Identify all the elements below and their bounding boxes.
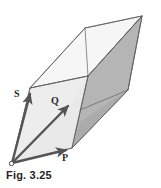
origin-point-marker [9,161,13,165]
figure-caption: Fig. 3.25 [6,169,52,181]
vector-label-p: P [62,153,68,163]
parallelepiped-diagram [0,0,161,188]
figure-3-25: S Q P Fig. 3.25 [0,0,161,188]
vector-label-s: S [14,89,20,99]
vector-label-q: Q [51,96,59,106]
